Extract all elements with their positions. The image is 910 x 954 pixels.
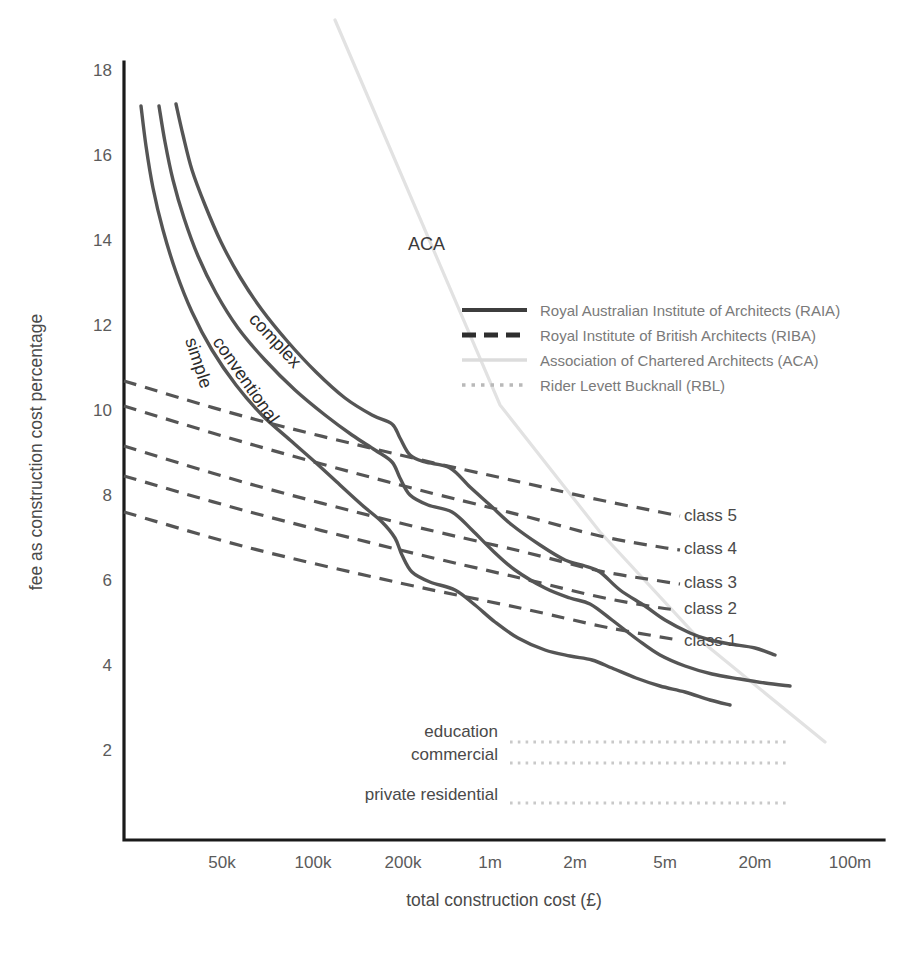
axis-lines [124,62,884,840]
y-axis-tick-labels: 24681012141618 [93,61,112,760]
y-tick-label-10: 10 [93,401,112,420]
x-tick-label-50k: 50k [208,853,236,872]
x-tick-label-1m: 1m [478,853,502,872]
x-tick-label-100k: 100k [295,853,332,872]
data-series-layer [124,20,825,803]
chart-legend: Royal Australian Institute of Architects… [462,302,840,394]
legend-label-rbl: Rider Levett Bucknall (RBL) [540,377,725,394]
x-axis-tick-labels: 50k100k200k1m2m5m20m100m [208,853,871,872]
y-tick-label-14: 14 [93,231,112,250]
series-line-class-5 [124,381,680,516]
y-axis-title: fee as construction cost percentage [26,314,46,590]
y-tick-label-4: 4 [103,656,112,675]
y-tick-label-6: 6 [103,571,112,590]
y-tick-label-8: 8 [103,486,112,505]
y-tick-label-18: 18 [93,61,112,80]
series-line-class-2 [124,476,678,610]
series-label-ACA: ACA [408,234,445,254]
x-axis-title: total construction cost (£) [406,890,602,910]
series-label-class-3: class 3 [684,573,737,592]
series-label-class-2: class 2 [684,599,737,618]
x-tick-label-5m: 5m [653,853,677,872]
chart-container: 24681012141618 50k100k200k1m2m5m20m100m … [0,0,910,954]
legend-label-riba: Royal Institute of British Architects (R… [540,327,816,344]
x-tick-label-20m: 20m [738,853,771,872]
series-line-simple [141,106,730,705]
series-label-private-residential: private residential [365,785,498,804]
series-label-commercial: commercial [411,745,498,764]
fee-percentage-line-chart: 24681012141618 50k100k200k1m2m5m20m100m … [0,0,910,954]
legend-label-aca: Association of Chartered Architects (ACA… [540,352,818,369]
y-tick-label-16: 16 [93,146,112,165]
y-tick-label-12: 12 [93,316,112,335]
series-label-class-4: class 4 [684,539,737,558]
series-line-class-1 [124,512,678,640]
series-label-complex: complex [245,309,305,372]
x-tick-label-200k: 200k [385,853,422,872]
y-tick-label-2: 2 [103,741,112,760]
x-tick-label-2m: 2m [563,853,587,872]
legend-label-raia: Royal Australian Institute of Architects… [540,302,840,319]
series-label-class-1: class 1 [684,631,737,650]
x-tick-label-100m: 100m [829,853,872,872]
series-label-class-5: class 5 [684,506,737,525]
series-line-class-3 [124,446,680,584]
axes-group [124,62,884,840]
series-label-education: education [424,722,498,741]
